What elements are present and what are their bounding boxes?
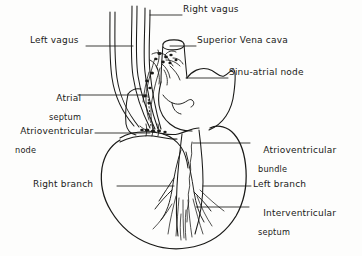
ventricles-outline (101, 126, 246, 248)
label-left-branch: Left branch (253, 180, 306, 189)
right-auricle (163, 95, 194, 114)
label-interventricular-septum-line1: Interventricular (263, 208, 336, 218)
label-right-branch: Right branch (33, 180, 93, 189)
label-superior-vena-cava: Superior Vena cava (197, 36, 288, 45)
label-atrioventricular-node: Atrioventricular node (8, 118, 93, 172)
label-atrial-septum-line1: Atrial (56, 93, 81, 103)
label-right-vagus: Right vagus (183, 5, 239, 14)
sinu-atrial-node-plexus (150, 50, 183, 85)
diagram-canvas: Right vagus Left vagus Superior Vena cav… (0, 0, 362, 256)
label-atrioventricular-bundle-line1: Atrioventricular (263, 145, 336, 155)
left-vagus-nerve-trunk (110, 12, 139, 127)
label-atrioventricular-bundle-line2: bundle (251, 165, 336, 173)
septum-inner-line (187, 142, 192, 222)
label-atrioventricular-node-line2: node (8, 146, 93, 154)
label-atrioventricular-node-line1: Atrioventricular (20, 126, 93, 136)
label-interventricular-septum: Interventricular septum (251, 200, 336, 254)
left-atrium-wall (126, 89, 141, 135)
label-interventricular-septum-line2: septum (251, 228, 336, 236)
label-sinu-atrial-node: Sinu-atrial node (229, 68, 304, 77)
label-left-vagus: Left vagus (30, 36, 79, 45)
